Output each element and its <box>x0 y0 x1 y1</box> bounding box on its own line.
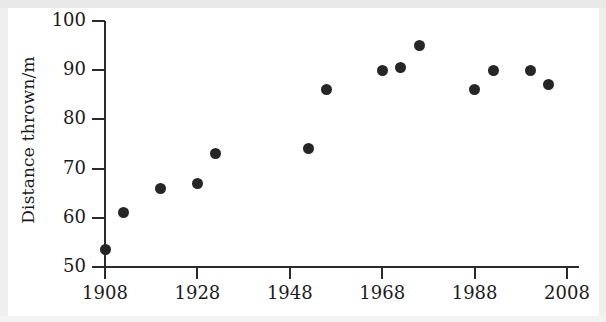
plot-background <box>8 8 599 316</box>
scatter-point <box>525 65 536 76</box>
x-axis-tick-label: 1928 <box>157 284 237 306</box>
y-axis-tick-label: 80 <box>22 109 86 127</box>
y-axis-tick-label: 70 <box>22 159 86 177</box>
x-axis-tick-label: 2008 <box>527 284 606 306</box>
scatter-point <box>100 244 111 255</box>
y-axis-tick-label-text: 100 <box>26 11 86 29</box>
y-axis-tick-label: 60 <box>22 208 86 226</box>
y-axis-tick-label-text: 50 <box>26 257 86 275</box>
y-axis-tick-label: 50 <box>22 257 86 275</box>
y-axis-tick <box>92 118 105 120</box>
figure-border-top <box>0 0 606 8</box>
y-axis-tick <box>92 168 105 170</box>
x-axis-tick <box>566 267 568 279</box>
x-axis-tick-label: 1908 <box>65 284 145 306</box>
scatter-point <box>192 178 203 189</box>
x-axis-tick-label-text: 1948 <box>250 284 330 302</box>
y-axis-tick <box>92 217 105 219</box>
x-axis-tick-label: 1988 <box>435 284 515 306</box>
x-axis-tick-label-text: 1928 <box>157 284 237 302</box>
scatter-point <box>488 65 499 76</box>
x-axis-tick <box>381 267 383 279</box>
scatter-point <box>155 183 166 194</box>
y-axis-tick-label: 100 <box>22 11 86 29</box>
figure-border-bottom <box>0 316 606 322</box>
x-axis-tick-label-text: 1908 <box>65 284 145 302</box>
x-axis-tick <box>196 267 198 279</box>
y-axis-tick-label-text: 70 <box>26 159 86 177</box>
x-axis-tick-label-text: 2008 <box>527 284 606 302</box>
y-axis-tick <box>92 69 105 71</box>
y-axis-tick-label: 90 <box>22 60 86 78</box>
scatter-point <box>377 65 388 76</box>
y-axis-tick-label-text: 90 <box>26 60 86 78</box>
x-axis-tick <box>474 267 476 279</box>
chart-figure: Distance thrown/m 5060708090100 19081928… <box>0 0 606 322</box>
y-axis-tick-label-text: 80 <box>26 109 86 127</box>
x-axis-tick-label: 1948 <box>250 284 330 306</box>
x-axis-tick <box>289 267 291 279</box>
scatter-point <box>414 40 425 51</box>
x-axis-tick-label-text: 1968 <box>342 284 422 302</box>
figure-border-left <box>0 0 8 322</box>
y-axis-tick <box>92 20 105 22</box>
x-axis-line <box>96 266 579 268</box>
y-axis-line <box>104 21 106 273</box>
x-axis-tick-label-text: 1988 <box>435 284 515 302</box>
x-axis-tick <box>104 267 106 279</box>
x-axis-tick-label: 1968 <box>342 284 422 306</box>
y-axis-tick-label-text: 60 <box>26 208 86 226</box>
figure-border-right <box>599 0 606 322</box>
